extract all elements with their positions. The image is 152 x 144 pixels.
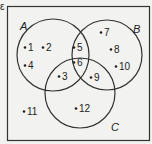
element-3: 3 [58,71,68,82]
element-dot [115,65,118,68]
element-value: 4 [28,60,34,71]
element-9: 9 [90,72,100,83]
element-value: 12 [79,103,91,114]
set-label-c: C [111,121,119,133]
element-7: 7 [100,27,110,38]
element-value: 2 [46,42,52,53]
element-dot [24,46,27,49]
element-value: 1 [28,42,34,53]
element-dot [58,75,61,78]
element-1: 1 [24,42,34,53]
element-value: 5 [77,42,83,53]
venn-diagram: ε ABC 124563978101211 [0,0,152,144]
element-dot [73,46,76,49]
element-dot [90,76,93,79]
set-circle-c [45,58,115,128]
element-value: 7 [104,27,110,38]
set-circle-a [17,19,89,91]
element-value: 3 [62,71,68,82]
element-value: 6 [77,57,83,68]
universal-set-label: ε [0,1,5,12]
element-4: 4 [24,60,34,71]
element-11: 11 [23,106,38,117]
element-12: 12 [75,103,91,114]
element-dot [23,110,26,113]
set-label-a: A [19,20,27,32]
element-value: 10 [119,61,131,72]
set-label-b: B [133,23,140,35]
element-value: 11 [27,106,38,117]
element-2: 2 [42,42,52,53]
element-dot [75,107,78,110]
element-dot [24,64,27,67]
element-value: 9 [94,72,100,83]
element-dot [100,31,103,34]
element-dot [73,61,76,64]
element-dot [42,46,45,49]
element-dot [110,48,113,51]
element-10: 10 [115,61,131,72]
element-value: 8 [114,44,120,55]
element-8: 8 [110,44,120,55]
